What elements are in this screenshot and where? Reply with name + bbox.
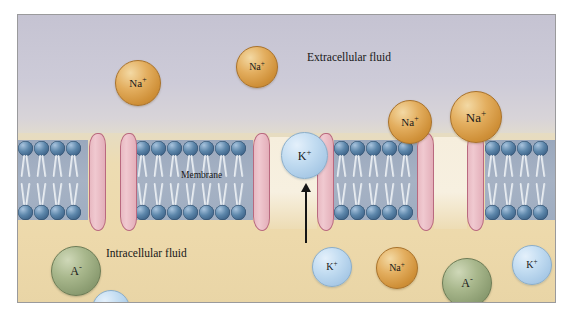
- phospholipid-tail-row: [485, 179, 556, 205]
- phospholipid-tail-icon: [50, 179, 66, 205]
- phospholipid-head-row: [135, 140, 253, 156]
- potassium-ion: K+: [312, 247, 352, 287]
- phospholipid-tail-row: [18, 179, 88, 205]
- bilayer-segment: [334, 140, 417, 220]
- anion: A-: [51, 246, 101, 296]
- phospholipid-tail-icon: [334, 155, 350, 181]
- phospholipid-head-icon: [50, 141, 65, 156]
- phospholipid-head-icon: [18, 141, 33, 156]
- extracellular-fluid-label: Extracellular fluid: [307, 51, 391, 63]
- ion-charge: +: [334, 260, 338, 268]
- phospholipid-tail-icon: [398, 179, 414, 205]
- ion-charge: +: [414, 114, 418, 123]
- ion-charge: +: [142, 75, 146, 84]
- channel-protein-left-b-icon: [120, 133, 137, 231]
- phospholipid-tail-icon: [382, 179, 398, 205]
- ion-charge: +: [112, 302, 116, 304]
- phospholipid-tail-icon: [366, 155, 382, 181]
- phospholipid-tail-row: [334, 179, 417, 205]
- ion-label: K+: [326, 262, 337, 272]
- ion-symbol: K: [326, 261, 333, 272]
- ion-charge: -: [79, 262, 82, 272]
- phospholipid-tail-icon: [50, 155, 66, 181]
- phospholipid-tail-icon: [215, 179, 231, 205]
- ion-charge: +: [306, 147, 311, 157]
- phospholipid-tail-row: [18, 155, 88, 181]
- ion-label: K+: [526, 260, 537, 270]
- phospholipid-head-row: [485, 204, 556, 220]
- intracellular-fluid-label: Intracellular fluid: [106, 247, 187, 259]
- illustration-panel: Na+Na+Na+Na+K+A-K+K+Na+A-K+ Extracellula…: [17, 14, 556, 303]
- ion-charge: -: [470, 274, 473, 284]
- phospholipid-head-icon: [501, 205, 516, 220]
- phospholipid-tail-icon: [334, 179, 350, 205]
- ion-symbol: A: [461, 276, 470, 290]
- bilayer-segment: [18, 140, 88, 220]
- phospholipid-tail-icon: [350, 179, 366, 205]
- phospholipid-tail-icon: [183, 179, 199, 205]
- phospholipid-head-icon: [151, 141, 166, 156]
- phospholipid-head-icon: [215, 141, 230, 156]
- phospholipid-tail-icon: [485, 155, 501, 181]
- phospholipid-tail-icon: [34, 179, 50, 205]
- phospholipid-head-icon: [66, 141, 81, 156]
- ion-symbol: A: [70, 264, 79, 278]
- phospholipid-head-icon: [485, 141, 500, 156]
- phospholipid-head-icon: [50, 205, 65, 220]
- phospholipid-head-icon: [533, 141, 548, 156]
- ion-symbol: Na: [129, 77, 142, 89]
- phospholipid-head-icon: [533, 205, 548, 220]
- arrow-shaft: [305, 191, 307, 243]
- phospholipid-head-icon: [382, 205, 397, 220]
- phospholipid-head-icon: [398, 205, 413, 220]
- cell-membrane-diagram: Na+Na+Na+Na+K+A-K+K+Na+A-K+ Extracellula…: [0, 0, 577, 321]
- ion-charge: +: [261, 60, 265, 68]
- phospholipid-head-icon: [350, 205, 365, 220]
- phospholipid-head-icon: [366, 205, 381, 220]
- phospholipid-head-row: [18, 204, 88, 220]
- phospholipid-head-icon: [517, 205, 532, 220]
- phospholipid-tail-icon: [231, 179, 247, 205]
- phospholipid-tail-icon: [350, 155, 366, 181]
- membrane-label: Membrane: [181, 170, 222, 180]
- phospholipid-tail-icon: [66, 155, 82, 181]
- phospholipid-tail-icon: [517, 179, 533, 205]
- phospholipid-tail-icon: [501, 179, 517, 205]
- phospholipid-tail-icon: [231, 155, 247, 181]
- anion: A-: [442, 258, 492, 303]
- phospholipid-head-icon: [167, 205, 182, 220]
- phospholipid-tail-icon: [135, 155, 151, 181]
- ion-label: A-: [461, 277, 473, 289]
- phospholipid-tail-icon: [382, 155, 398, 181]
- phospholipid-head-icon: [334, 141, 349, 156]
- ion-symbol: Na: [249, 61, 261, 72]
- ion-symbol: Na: [389, 262, 401, 273]
- phospholipid-tail-icon: [501, 155, 517, 181]
- phospholipid-tail-icon: [533, 179, 549, 205]
- phospholipid-head-icon: [34, 205, 49, 220]
- ion-label: Na+: [466, 111, 486, 124]
- phospholipid-tail-icon: [18, 179, 34, 205]
- sodium-ion: Na+: [236, 46, 278, 88]
- phospholipid-tail-row: [485, 155, 556, 181]
- phospholipid-head-row: [135, 204, 253, 220]
- phospholipid-head-icon: [18, 205, 33, 220]
- phospholipid-tail-icon: [18, 155, 34, 181]
- phospholipid-tail-icon: [34, 155, 50, 181]
- ion-charge: +: [481, 108, 486, 118]
- ion-label: A-: [70, 265, 82, 277]
- phospholipid-head-icon: [485, 205, 500, 220]
- phospholipid-tail-icon: [398, 155, 414, 181]
- phospholipid-tail-icon: [533, 155, 549, 181]
- phospholipid-tail-icon: [167, 179, 183, 205]
- bilayer-segment: [485, 140, 556, 220]
- phospholipid-head-icon: [66, 205, 81, 220]
- phospholipid-head-icon: [135, 205, 150, 220]
- phospholipid-tail-icon: [135, 179, 151, 205]
- channel-protein-sodium-left-icon: [417, 133, 434, 231]
- sodium-ion: Na+: [115, 60, 161, 106]
- pore-sodium: [434, 137, 467, 229]
- phospholipid-tail-row: [334, 155, 417, 181]
- ion-label: K+: [298, 150, 312, 162]
- phospholipid-head-icon: [183, 141, 198, 156]
